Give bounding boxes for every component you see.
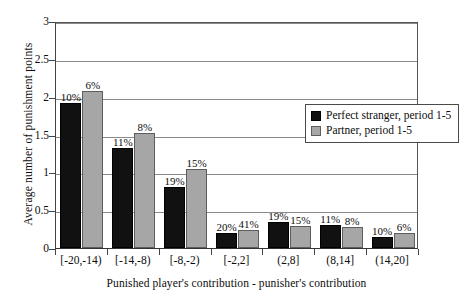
x-axis-category-label: (14,20] [375,255,409,267]
bar: 41% [238,230,259,248]
gridline [56,23,417,24]
x-axis-category-label: (2,8] [277,255,299,267]
x-axis-tick-mark [55,249,56,255]
y-axis-tick-label: 0 [13,243,49,255]
y-axis-tick-mark [49,173,55,174]
x-axis-tick-mark [107,249,108,255]
x-axis-tick-mark [211,249,212,255]
y-axis-tick-mark [49,136,55,137]
legend-label-perfect-stranger: Perfect stranger, period 1-5 [326,110,451,122]
bar-group: 10%6% [56,91,108,248]
bar-value-label: 41% [238,219,258,230]
bar-value-label: 8% [137,122,152,133]
bar: 6% [82,91,103,248]
bar-value-label: 15% [290,215,310,226]
y-axis-tick-label: 2 [13,92,49,104]
y-axis-tick-label: 2.5 [13,54,49,66]
bar-value-label: 6% [397,222,412,233]
bar-value-label: 19% [268,211,288,222]
y-axis-tick-mark [49,98,55,99]
legend-item-perfect-stranger: Perfect stranger, period 1-5 [311,108,451,123]
bar: 11% [112,148,133,248]
bar-group: 19%15% [263,222,315,248]
bar-group: 11%8% [108,133,160,248]
legend-item-partner: Partner, period 1-5 [311,123,451,138]
bar: 19% [268,222,289,248]
bar-value-label: 15% [187,158,207,169]
legend-label-partner: Partner, period 1-5 [326,125,412,137]
x-axis-category-label: [-8,-2) [170,255,200,267]
y-axis-tick-mark [49,22,55,23]
bar-group: 20%41% [212,230,264,248]
x-axis-tick-mark [366,249,367,255]
legend-swatch-icon-partner [311,126,321,136]
y-axis-tick-mark [49,211,55,212]
bar: 19% [164,187,185,248]
legend-swatch-icon-perfect-stranger [311,111,321,121]
y-axis-tick-label: 1 [13,167,49,179]
x-axis-category-label: [-2,2] [224,255,250,267]
bar-value-label: 11% [113,137,133,148]
gridline [56,99,417,100]
bar-group: 10%6% [367,233,419,248]
bar-value-label: 20% [216,222,236,233]
x-axis-category-label: [-20,-14) [60,255,101,267]
bar: 15% [290,226,311,248]
x-axis-tick-mark [262,249,263,255]
x-axis-category-label: (8,14] [326,255,354,267]
bar: 8% [134,133,155,248]
x-axis-title: Punished player's contribution - punishe… [55,277,418,289]
x-axis-category-label: [-14,-8) [115,255,150,267]
bar-group: 19%15% [160,169,212,248]
bar: 10% [60,103,81,248]
bar-value-label: 11% [320,214,340,225]
x-axis-tick-mark [159,249,160,255]
plot-area: 10%6%11%8%19%15%20%41%19%15%11%8%10%6% P… [55,22,418,249]
bar-value-label: 19% [165,176,185,187]
bar-group: 11%8% [315,225,367,248]
x-axis-tick-mark [418,249,419,255]
bar: 8% [342,227,363,248]
bar: 6% [394,233,415,248]
chart-legend: Perfect stranger, period 1-5 Partner, pe… [305,104,459,143]
bar-value-label: 10% [61,92,81,103]
y-axis-tick-label: 0.5 [13,205,49,217]
bar-value-label: 8% [345,216,360,227]
y-axis-tick-mark [49,60,55,61]
x-axis-tick-mark [314,249,315,255]
bar: 20% [216,233,237,248]
gridline [56,61,417,62]
bar-value-label: 10% [372,226,392,237]
bar: 11% [320,225,341,248]
bar: 15% [186,169,207,248]
y-axis-tick-label: 1.5 [13,130,49,142]
y-axis-tick-label: 3 [13,16,49,28]
bar-value-label: 6% [86,80,101,91]
bar: 10% [372,237,393,248]
